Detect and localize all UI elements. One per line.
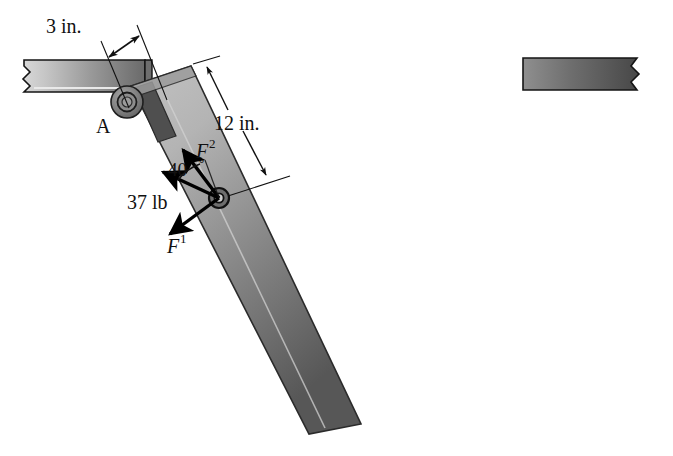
force-f1-label: F: [166, 235, 180, 257]
force-f2-label: F: [195, 140, 209, 162]
lever-arm-highlight: [160, 84, 325, 428]
load-magnitude-label: 37 lb: [127, 191, 168, 213]
support-point-label: A: [96, 115, 111, 137]
dimension-12in-label: 12 in.: [214, 112, 260, 134]
detached-bar: [523, 58, 639, 90]
dim-12in-arrow-lower: [243, 131, 266, 175]
force-f1-superscript: 1: [180, 231, 187, 246]
dimension-3in-label: 3 in.: [46, 15, 82, 37]
force-f2-superscript: 2: [209, 136, 216, 151]
dim-12in-arrow-upper: [207, 67, 228, 110]
engineering-figure: 3 in. 12 in. A 40 ° 37 lb F 2 F 1: [0, 0, 673, 456]
figure-canvas: 3 in. 12 in. A 40 ° 37 lb F 2 F 1: [0, 0, 673, 456]
dim-12in-extension-top: [193, 56, 220, 64]
force-f1-label-group: F 1: [166, 231, 187, 257]
angle-value-label: 40: [168, 159, 187, 180]
dim-3in-arrow: [109, 36, 139, 57]
detached-bar-body: [523, 58, 639, 90]
